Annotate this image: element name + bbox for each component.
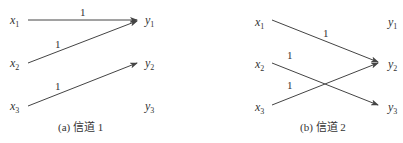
panel-b: x1 x2 x3 y1 y2 y3 1 1 1 (b) 信道 2 (254, 15, 397, 134)
output-node-y3: y3 (387, 100, 397, 116)
output-node-y2: y2 (387, 57, 397, 73)
channel-diagrams: x1 x2 x3 y1 y2 y3 1 1 1 (a) 信道 1 x (0, 0, 403, 143)
output-node-y1: y1 (144, 13, 154, 29)
input-node-x3: x3 (9, 99, 19, 115)
input-node-x2: x2 (9, 56, 19, 72)
input-node-x2: x2 (254, 57, 264, 73)
edge-label-x3-y2: 1 (55, 80, 61, 92)
input-node-x1: x1 (9, 13, 19, 29)
output-node-y2: y2 (144, 56, 154, 72)
output-node-y3: y3 (144, 99, 154, 115)
output-node-y1: y1 (387, 15, 397, 31)
edge-x3-y2 (28, 63, 137, 106)
caption-b: (b) 信道 2 (300, 120, 346, 134)
edge-label-x1-y2: 1 (323, 27, 329, 39)
edge-x2-y1 (28, 21, 137, 63)
edge-label-x3-y2: 1 (287, 79, 293, 91)
edge-label-x1-y1: 1 (80, 6, 86, 18)
input-node-x3: x3 (254, 100, 264, 116)
edge-label-x2-y3: 1 (287, 49, 293, 61)
caption-a: (a) 信道 1 (58, 120, 103, 134)
panel-a: x1 x2 x3 y1 y2 y3 1 1 1 (a) 信道 1 (9, 6, 154, 134)
input-node-x1: x1 (254, 15, 264, 31)
edge-label-x2-y1: 1 (55, 38, 61, 50)
